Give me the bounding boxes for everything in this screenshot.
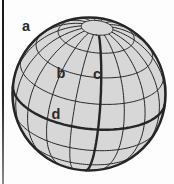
label-c: c: [93, 66, 101, 82]
label-b: b: [57, 65, 66, 81]
globe-diagram: abcd: [0, 0, 174, 184]
label-a: a: [22, 18, 31, 34]
figure-panel: abcd: [0, 0, 174, 184]
label-d: d: [52, 106, 61, 122]
